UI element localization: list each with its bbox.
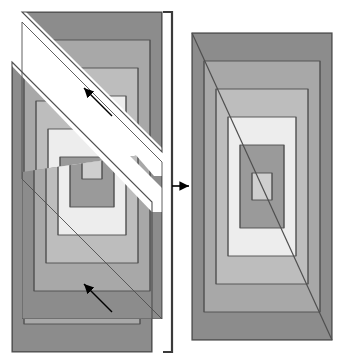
diagram-canvas: Step dissection of a rectangle geometric… — [0, 0, 345, 364]
right-panel-assembled-figure — [192, 33, 332, 340]
dissection-diagram — [0, 0, 345, 364]
left-panel-sheared-figure — [10, 12, 172, 352]
